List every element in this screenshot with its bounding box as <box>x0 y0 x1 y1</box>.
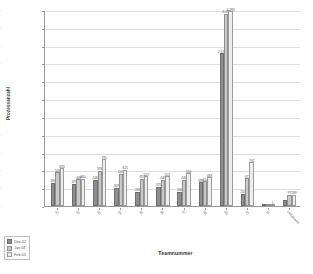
bar-group: 1 <box>258 11 279 206</box>
bar-group: 446593791 <box>89 11 110 206</box>
x-axis-tick: 07 <box>173 208 194 244</box>
bar-value-label: 554 <box>186 170 191 174</box>
legend-label: Jan 03 <box>14 246 25 250</box>
x-axis-tick-label: 04 <box>117 210 123 216</box>
bar-groups: 3945666333754484604465937913095416112434… <box>45 11 300 206</box>
x-axis-tick-label: Unbekannt <box>286 210 300 225</box>
bar-value-label: 483 <box>207 174 212 178</box>
x-axis-tick-label: 11 <box>265 210 270 215</box>
x-axis-tick: 01 <box>46 208 67 244</box>
x-axis-tick: 02 <box>67 208 88 244</box>
y-axis-title: Prozessanzahl <box>7 87 12 120</box>
bar-value-label: 3.283 <box>227 8 235 12</box>
bar-group: 2.5783.2403.283 <box>216 11 237 206</box>
bar-value-label: 633 <box>59 165 64 169</box>
bar-value-label: 501 <box>165 173 170 177</box>
bar: 1 <box>271 204 275 206</box>
x-axis-tick-label: 09 <box>223 210 229 216</box>
legend-label: Dez 02 <box>14 240 26 244</box>
bar-group: 243457502 <box>131 11 152 206</box>
bar: 791 <box>102 159 106 206</box>
x-axis-tick-label: 05 <box>138 210 144 216</box>
x-axis-tick: 10 <box>237 208 258 244</box>
bar-value-label: 611 <box>123 166 128 170</box>
bar: 3.283 <box>228 11 232 206</box>
y-axis-tick-mark <box>42 29 44 30</box>
chart-legend: Dez 02Jan 03Feb 03 <box>4 236 30 260</box>
bar-group: 375448460 <box>68 11 89 206</box>
x-axis-tick-label: 03 <box>96 210 102 216</box>
legend-item: Jan 03 <box>7 246 26 251</box>
bar-value-label: 742 <box>249 159 254 163</box>
x-axis-tick-label: 02 <box>75 210 81 216</box>
bar: 502 <box>144 176 148 206</box>
bar-group: 325440501 <box>152 11 173 206</box>
legend-label: Feb 03 <box>14 253 26 257</box>
x-axis-tick: 05 <box>131 208 152 244</box>
x-axis-tick: 06 <box>152 208 173 244</box>
x-axis-tick: Unbekannt <box>279 208 300 244</box>
plot-area: 3945666333754484604465937913095416112434… <box>44 11 300 207</box>
x-axis-tick: 11 <box>258 208 279 244</box>
bar-chart: Prozessanzahl 39456663337544846044659379… <box>0 0 313 274</box>
bar-value-label: 502 <box>144 173 149 177</box>
bar: 742 <box>249 162 253 206</box>
bar-group: 398414483 <box>195 11 216 206</box>
bar: 501 <box>165 176 169 206</box>
y-axis-tick-mark <box>42 189 44 190</box>
y-axis-tick-mark <box>42 47 44 48</box>
y-axis-tick-mark <box>42 82 44 83</box>
bar-group: 97189 <box>279 11 300 206</box>
bar-value-label: 791 <box>101 156 106 160</box>
bar-value-label: 1 <box>272 201 274 205</box>
bar-group: 244446554 <box>173 11 194 206</box>
legend-item: Feb 03 <box>7 252 26 257</box>
x-axis-tick: 08 <box>194 208 215 244</box>
bar-group: 309541611 <box>110 11 131 206</box>
bar: 633 <box>60 168 64 206</box>
y-axis-tick-mark <box>42 171 44 172</box>
bar-group: 394566633 <box>47 11 68 206</box>
x-axis-tick-label: 10 <box>244 210 250 216</box>
y-axis-tick-mark <box>42 118 44 119</box>
legend-item: Dez 02 <box>7 239 26 244</box>
bar-group: 210473742 <box>237 11 258 206</box>
y-axis-tick-mark <box>42 11 44 12</box>
bar: 483 <box>207 177 211 206</box>
bar: 189 <box>292 195 296 206</box>
bar-value-label: 460 <box>80 175 85 179</box>
x-axis-tick-label: 06 <box>159 210 165 216</box>
x-axis-tick-label: 07 <box>181 210 187 216</box>
y-axis-tick-mark <box>42 154 44 155</box>
x-axis-title: Teamnummer <box>44 250 307 256</box>
legend-swatch <box>7 252 12 257</box>
bar: 554 <box>186 173 190 206</box>
y-axis-tick-mark <box>42 136 44 137</box>
bar-value-label: 189 <box>291 191 296 195</box>
x-axis-tick-label: 01 <box>54 210 60 216</box>
legend-swatch <box>7 239 12 244</box>
x-axis-ticks: 0102030405060708091011Unbekannt <box>44 208 300 244</box>
x-axis-tick-label: 08 <box>202 210 208 216</box>
bar: 460 <box>81 179 85 206</box>
y-axis-tick-mark <box>42 64 44 65</box>
x-axis-tick: 03 <box>88 208 109 244</box>
y-axis-tick-mark <box>42 100 44 101</box>
y-axis-title-wrapper: Prozessanzahl <box>2 0 16 207</box>
x-axis-tick: 09 <box>215 208 236 244</box>
bar: 611 <box>123 170 127 206</box>
x-axis-tick: 04 <box>110 208 131 244</box>
legend-swatch <box>7 246 12 251</box>
